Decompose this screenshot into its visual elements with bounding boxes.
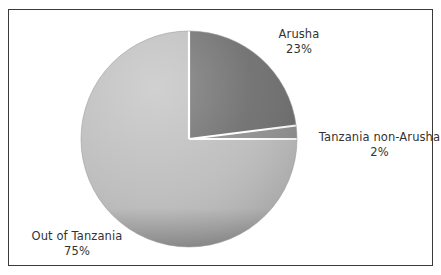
pie-label-tanzania-non-arusha-name: Tanzania non-Arusha [315, 130, 441, 145]
pie-label-arusha: Arusha 23% [268, 27, 330, 56]
pie-label-out-of-tanzania-name: Out of Tanzania [25, 229, 129, 244]
pie-label-tanzania-non-arusha: Tanzania non-Arusha 2% [315, 130, 441, 159]
pie-rim-shadow [81, 31, 297, 247]
pie-chart-plot-area: Arusha 23% Tanzania non-Arusha 2% Out of… [9, 10, 432, 265]
pie-label-out-of-tanzania-value: 75% [25, 244, 129, 259]
pie-label-arusha-value: 23% [268, 42, 330, 57]
chart-frame: Arusha 23% Tanzania non-Arusha 2% Out of… [8, 9, 433, 266]
pie-label-tanzania-non-arusha-value: 2% [315, 145, 441, 160]
pie-label-arusha-name: Arusha [268, 27, 330, 42]
pie-label-out-of-tanzania: Out of Tanzania 75% [25, 229, 129, 258]
